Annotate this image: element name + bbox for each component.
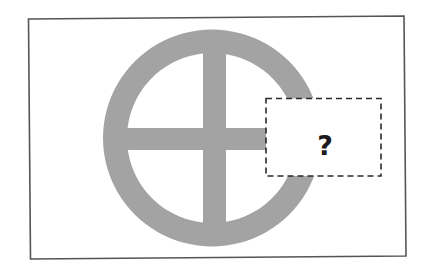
question-mark: ?: [317, 130, 333, 161]
horizontal-bar: [118, 128, 278, 150]
puzzle-figure: ?: [0, 0, 428, 270]
